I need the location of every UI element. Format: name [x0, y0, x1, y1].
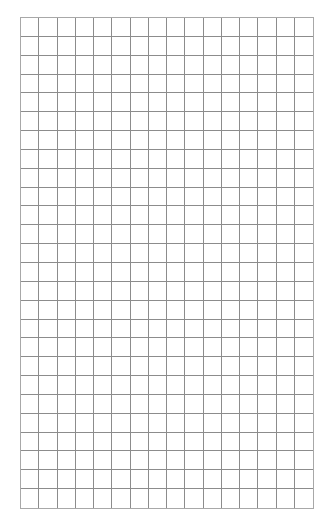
grid-cell: [277, 301, 295, 320]
grid-cell: [167, 338, 185, 357]
grid-cell: [222, 112, 240, 131]
grid-cell: [258, 37, 276, 56]
grid-cell: [204, 451, 222, 470]
grid-cell: [277, 75, 295, 94]
grid-cell: [204, 244, 222, 263]
grid-cell: [39, 320, 57, 339]
grid-cell: [94, 489, 112, 508]
grid-cell: [295, 301, 313, 320]
grid-cell: [58, 18, 76, 37]
grid-cell: [21, 301, 39, 320]
grid-cell: [295, 489, 313, 508]
grid-cell: [204, 338, 222, 357]
grid-cell: [39, 395, 57, 414]
grid-cell: [277, 433, 295, 452]
grid-cell: [39, 282, 57, 301]
grid-cell: [185, 320, 203, 339]
grid-cell: [58, 244, 76, 263]
grid-cell: [58, 301, 76, 320]
grid-cell: [204, 357, 222, 376]
grid-cell: [39, 470, 57, 489]
grid-cell: [295, 320, 313, 339]
grid-cell: [295, 470, 313, 489]
grid-cell: [21, 338, 39, 357]
grid-cell: [185, 338, 203, 357]
grid-cell: [21, 18, 39, 37]
grid-cell: [21, 112, 39, 131]
grid-cell: [204, 56, 222, 75]
grid-cell: [21, 470, 39, 489]
grid-cell: [131, 263, 149, 282]
grid-cell: [277, 112, 295, 131]
grid-cell: [277, 338, 295, 357]
grid-cell: [167, 75, 185, 94]
grid-cell: [131, 357, 149, 376]
grid-cell: [277, 414, 295, 433]
grid-cell: [39, 225, 57, 244]
grid-cell: [240, 112, 258, 131]
grid-cell: [258, 188, 276, 207]
grid-cell: [258, 56, 276, 75]
grid-cell: [240, 244, 258, 263]
grid-cell: [76, 206, 94, 225]
grid-cell: [204, 37, 222, 56]
grid-cell: [131, 188, 149, 207]
grid-cell: [240, 395, 258, 414]
grid-cell: [58, 320, 76, 339]
grid-cell: [185, 282, 203, 301]
grid-cell: [39, 93, 57, 112]
grid-cell: [204, 112, 222, 131]
grid-cell: [167, 112, 185, 131]
grid-cell: [94, 75, 112, 94]
grid-cell: [21, 56, 39, 75]
grid-cell: [204, 75, 222, 94]
grid-cell: [204, 320, 222, 339]
grid-cell: [204, 470, 222, 489]
grid-cell: [277, 188, 295, 207]
grid-cell: [222, 433, 240, 452]
grid-cell: [112, 56, 130, 75]
grid-cell: [94, 433, 112, 452]
grid-cell: [222, 225, 240, 244]
grid-cell: [222, 18, 240, 37]
grid-cell: [39, 37, 57, 56]
grid-cell: [94, 338, 112, 357]
grid-cell: [277, 451, 295, 470]
grid-cell: [258, 244, 276, 263]
grid-cell: [295, 37, 313, 56]
grid-cell: [149, 263, 167, 282]
grid-cell: [185, 395, 203, 414]
grid-cell: [167, 169, 185, 188]
grid-cell: [295, 112, 313, 131]
grid-cell: [149, 225, 167, 244]
grid-cell: [185, 188, 203, 207]
grid-cell: [131, 169, 149, 188]
grid-cell: [112, 206, 130, 225]
grid-cell: [149, 470, 167, 489]
grid-cell: [295, 357, 313, 376]
grid-cell: [185, 75, 203, 94]
grid-cell: [58, 451, 76, 470]
grid-cell: [21, 131, 39, 150]
grid-cell: [185, 169, 203, 188]
grid-cell: [240, 376, 258, 395]
grid-cell: [258, 225, 276, 244]
grid-cell: [21, 376, 39, 395]
grid-cell: [21, 206, 39, 225]
grid-cell: [258, 282, 276, 301]
grid-cell: [185, 451, 203, 470]
grid-cell: [94, 263, 112, 282]
grid-cell: [149, 320, 167, 339]
grid-cell: [112, 112, 130, 131]
grid-cell: [76, 433, 94, 452]
grid-cell: [204, 433, 222, 452]
grid-cell: [222, 451, 240, 470]
grid-cell: [222, 357, 240, 376]
grid-cell: [149, 37, 167, 56]
grid-cell: [131, 395, 149, 414]
grid-cell: [39, 244, 57, 263]
grid-cell: [222, 395, 240, 414]
grid-cell: [167, 131, 185, 150]
grid-cell: [295, 206, 313, 225]
grid-cell: [39, 338, 57, 357]
